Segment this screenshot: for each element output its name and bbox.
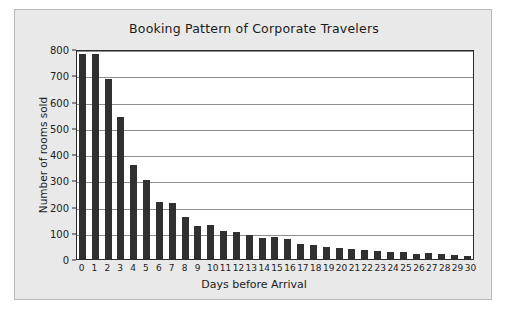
bar (348, 249, 355, 259)
x-tick-label: 25 (400, 261, 407, 277)
x-tick-label: 2 (104, 261, 111, 277)
bar (374, 251, 381, 259)
bar (207, 225, 214, 259)
bar-series (77, 51, 473, 259)
plot-area (76, 50, 474, 260)
x-tick-label: 19 (323, 261, 330, 277)
bar (413, 254, 420, 260)
x-tick-label: 20 (336, 261, 343, 277)
y-tick-label: 500 (50, 123, 69, 134)
x-tick-label: 5 (142, 261, 149, 277)
x-tick-label: 23 (374, 261, 381, 277)
y-tick-label: 600 (50, 97, 69, 108)
bar (79, 54, 86, 259)
y-tick-label: 200 (50, 202, 69, 213)
bar (400, 252, 407, 259)
x-tick-label: 4 (130, 261, 137, 277)
y-tick-label: 100 (50, 228, 69, 239)
x-tick-label: 18 (310, 261, 317, 277)
chart-title: Booking Pattern of Corporate Travelers (15, 21, 493, 36)
x-tick-label: 13 (246, 261, 253, 277)
x-tick-label: 0 (78, 261, 85, 277)
bar (182, 217, 189, 259)
x-tick-label: 10 (207, 261, 214, 277)
x-tick-label: 12 (233, 261, 240, 277)
x-tick-label: 21 (349, 261, 356, 277)
y-tick-label: 800 (50, 45, 69, 56)
bar (438, 254, 445, 259)
bar (92, 54, 99, 259)
bar (297, 244, 304, 259)
bar (284, 239, 291, 259)
bar (451, 255, 458, 259)
bar (361, 250, 368, 259)
bar (169, 203, 176, 259)
x-tick-label: 8 (181, 261, 188, 277)
bar (233, 232, 240, 259)
x-tick-label: 28 (439, 261, 446, 277)
x-tick-label: 30 (465, 261, 472, 277)
y-tick-label: 0 (63, 255, 69, 266)
x-tick-label: 22 (362, 261, 369, 277)
y-axis: Number of rooms sold 8007006005004003002… (15, 50, 76, 260)
x-tick-label: 6 (155, 261, 162, 277)
bar (323, 247, 330, 259)
x-tick-label: 1 (91, 261, 98, 277)
x-tick-label: 11 (220, 261, 227, 277)
bar (336, 248, 343, 259)
x-tick-label: 26 (413, 261, 420, 277)
x-tick-label: 3 (117, 261, 124, 277)
bar (271, 237, 278, 259)
bar (194, 226, 201, 259)
chart-figure: Booking Pattern of Corporate Travelers N… (14, 9, 492, 300)
bar (117, 117, 124, 259)
x-tick-label: 14 (258, 261, 265, 277)
bar (156, 202, 163, 259)
bar (246, 235, 253, 259)
bar (105, 79, 112, 259)
x-tick-label: 9 (194, 261, 201, 277)
bar (310, 245, 317, 259)
x-axis: 0123456789101112131415161718192021222324… (76, 261, 474, 277)
x-tick-label: 29 (452, 261, 459, 277)
x-tick-label: 7 (168, 261, 175, 277)
y-tick-label: 300 (50, 176, 69, 187)
bar (130, 165, 137, 260)
bar (425, 253, 432, 259)
x-tick-label: 15 (271, 261, 278, 277)
x-tick-label: 17 (297, 261, 304, 277)
x-tick-label: 16 (284, 261, 291, 277)
y-tick-label: 400 (50, 150, 69, 161)
y-axis-title: Number of rooms sold (37, 75, 49, 235)
x-axis-title: Days before Arrival (15, 278, 493, 291)
x-tick-label: 24 (387, 261, 394, 277)
bar (143, 180, 150, 259)
bar (220, 231, 227, 259)
bar (464, 256, 471, 259)
y-tick-label: 700 (50, 71, 69, 82)
bar (387, 252, 394, 259)
bar (259, 238, 266, 259)
x-tick-label: 27 (426, 261, 433, 277)
